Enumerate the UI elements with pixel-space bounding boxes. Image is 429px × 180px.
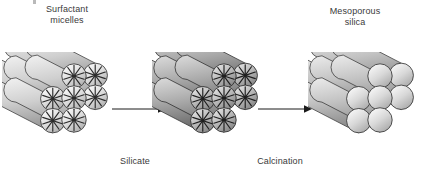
label-surfactant-micelles: Surfactant micelles [12,4,122,26]
mesoporous-silica-cluster [308,52,426,150]
surfactant-micelle-cluster [2,52,120,150]
silicate-coated-cluster [152,52,270,150]
diagram-canvas: Surfactant micelles Mesoporous silica Si… [0,0,429,180]
label-calcination: Calcination [225,156,335,167]
arrow-calcination [258,102,314,116]
label-mesoporous-silica: Mesoporous silica [300,6,410,28]
label-silicate: Silicate [80,156,190,167]
